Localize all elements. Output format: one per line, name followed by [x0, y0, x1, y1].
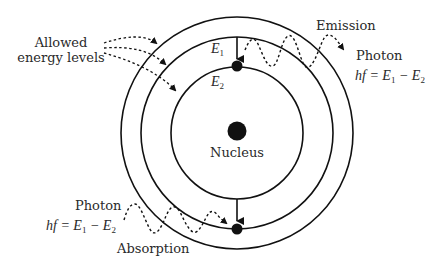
allowed-levels-label-line2: energy levels	[17, 50, 105, 65]
allowed-levels-label-line1: Allowed	[34, 35, 88, 50]
absorption-label: Absorption	[116, 241, 190, 256]
absorption-formula: hf = E1 − E2	[46, 218, 116, 235]
electron-emission	[232, 61, 243, 72]
emission-label: Emission	[316, 18, 376, 33]
emission-formula: hf = E1 − E2	[355, 68, 425, 85]
nucleus-dot	[228, 122, 247, 141]
absorption-photon-wave	[124, 204, 226, 233]
pointer-outer-orbit	[104, 37, 156, 43]
bohr-atom-diagram: Nucleus E1 E2 Emission Photon hf = E1 − …	[0, 0, 446, 268]
diagram-svg: Nucleus E1 E2 Emission Photon hf = E1 − …	[0, 0, 446, 268]
nucleus-label: Nucleus	[210, 145, 264, 160]
emission-photon-label: Photon	[356, 48, 403, 63]
level-e1-label: E1	[210, 41, 224, 58]
absorption-photon-label: Photon	[75, 198, 122, 213]
level-e2-label: E2	[210, 74, 224, 91]
electron-absorption	[232, 224, 243, 235]
